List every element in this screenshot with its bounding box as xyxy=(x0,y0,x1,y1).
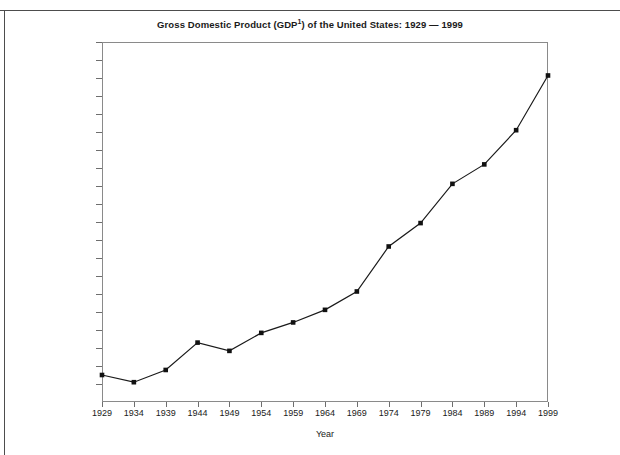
y-tick-mark xyxy=(96,78,102,79)
y-tick-mark xyxy=(96,258,102,259)
y-tick-mark xyxy=(96,312,102,313)
x-tick-label: 1974 xyxy=(379,408,399,418)
y-tick-mark xyxy=(96,96,102,97)
plot-area xyxy=(102,42,548,402)
y-tick-mark xyxy=(96,150,102,151)
x-tick-label: 1944 xyxy=(188,408,208,418)
x-tick-mark xyxy=(293,402,294,407)
y-tick-mark xyxy=(96,294,102,295)
x-tick-mark xyxy=(357,402,358,407)
y-tick-mark xyxy=(96,186,102,187)
x-tick-label: 1959 xyxy=(283,408,303,418)
y-tick-mark xyxy=(96,348,102,349)
y-tick-mark xyxy=(96,168,102,169)
y-axis: 5001,0001,5002,0002,5003,0003,5004,0004,… xyxy=(0,0,102,455)
x-tick-mark xyxy=(166,402,167,407)
chart-title-tail: ) of the United States: 1929 — 1999 xyxy=(302,19,463,30)
x-tick-mark xyxy=(134,402,135,407)
x-tick-mark xyxy=(229,402,230,407)
x-tick-label: 1964 xyxy=(315,408,335,418)
x-tick-mark xyxy=(516,402,517,407)
x-tick-label: 1934 xyxy=(124,408,144,418)
chart-title-main: Gross Domestic Product (GDP xyxy=(157,19,297,30)
x-tick-label: 1939 xyxy=(156,408,176,418)
x-tick-label: 1994 xyxy=(506,408,526,418)
y-tick-mark xyxy=(96,132,102,133)
y-tick-mark xyxy=(96,366,102,367)
x-tick-label: 1984 xyxy=(442,408,462,418)
y-tick-mark xyxy=(96,222,102,223)
y-tick-mark xyxy=(96,276,102,277)
y-tick-mark xyxy=(96,114,102,115)
x-tick-mark xyxy=(198,402,199,407)
x-tick-mark xyxy=(102,402,103,407)
x-tick-mark xyxy=(389,402,390,407)
x-tick-mark xyxy=(484,402,485,407)
x-axis-title: Year xyxy=(102,429,548,439)
x-tick-label: 1954 xyxy=(251,408,271,418)
x-tick-mark xyxy=(325,402,326,407)
x-tick-label: 1929 xyxy=(92,408,112,418)
y-tick-mark xyxy=(96,204,102,205)
x-tick-mark xyxy=(548,402,549,407)
x-tick-label: 1949 xyxy=(219,408,239,418)
y-tick-mark xyxy=(96,240,102,241)
y-tick-mark xyxy=(96,384,102,385)
y-tick-mark xyxy=(96,330,102,331)
x-tick-label: 1999 xyxy=(538,408,558,418)
y-tick-mark xyxy=(96,42,102,43)
x-tick-label: 1989 xyxy=(474,408,494,418)
x-tick-mark xyxy=(261,402,262,407)
x-tick-label: 1979 xyxy=(411,408,431,418)
y-tick-mark xyxy=(96,60,102,61)
x-tick-label: 1969 xyxy=(347,408,367,418)
x-tick-mark xyxy=(452,402,453,407)
x-tick-mark xyxy=(421,402,422,407)
